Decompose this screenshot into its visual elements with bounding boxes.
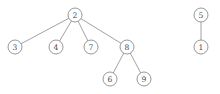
graph-diagram: 234786951 bbox=[0, 0, 220, 94]
graph-edge bbox=[78, 21, 88, 40]
graph-node[interactable]: 5 bbox=[194, 8, 208, 22]
node-circle bbox=[137, 72, 151, 86]
graph-node[interactable]: 4 bbox=[49, 40, 63, 54]
graph-node[interactable]: 8 bbox=[120, 40, 134, 54]
graph-node[interactable]: 2 bbox=[68, 8, 82, 22]
node-circle bbox=[194, 40, 208, 54]
node-circle bbox=[194, 8, 208, 22]
graph-edge bbox=[21, 18, 69, 43]
graph-node[interactable]: 1 bbox=[194, 40, 208, 54]
node-layer: 234786951 bbox=[8, 8, 208, 86]
graph-node[interactable]: 3 bbox=[8, 40, 22, 54]
graph-node[interactable]: 6 bbox=[103, 72, 117, 86]
node-circle bbox=[68, 8, 82, 22]
node-circle bbox=[49, 40, 63, 54]
graph-edge bbox=[130, 53, 140, 73]
graph-edge bbox=[113, 53, 123, 73]
node-circle bbox=[120, 40, 134, 54]
graph-edge bbox=[60, 21, 72, 41]
graph-node[interactable]: 9 bbox=[137, 72, 151, 86]
node-circle bbox=[103, 72, 117, 86]
node-circle bbox=[84, 40, 98, 54]
edge-layer bbox=[21, 18, 201, 73]
graph-canvas: 234786951 bbox=[0, 0, 220, 94]
node-circle bbox=[8, 40, 22, 54]
graph-node[interactable]: 7 bbox=[84, 40, 98, 54]
